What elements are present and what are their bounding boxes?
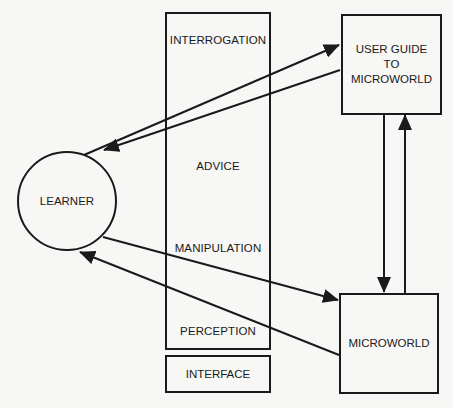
user-guide-line2: TO [384, 57, 400, 72]
microworld-label: MICROWORLD [348, 336, 429, 351]
section-manipulation: MANIPULATION [167, 242, 269, 254]
learner-node: LEARNER [17, 151, 117, 251]
section-perception: PERCEPTION [167, 325, 269, 337]
user-guide-node: USER GUIDE TO MICROWORLD [341, 14, 442, 115]
interface-caption: INTERFACE [186, 367, 251, 382]
user-guide-line1: USER GUIDE [356, 42, 428, 57]
section-advice: ADVICE [167, 160, 269, 172]
interface-column: INTERROGATION ADVICE MANIPULATION PERCEP… [165, 12, 271, 350]
user-guide-line3: MICROWORLD [351, 72, 432, 87]
section-interrogation: INTERROGATION [167, 34, 269, 46]
learner-label: LEARNER [40, 194, 94, 209]
diagram-canvas: LEARNER INTERROGATION ADVICE MANIPULATIO… [0, 0, 453, 408]
microworld-node: MICROWORLD [339, 293, 439, 394]
interface-caption-box: INTERFACE [165, 355, 271, 393]
